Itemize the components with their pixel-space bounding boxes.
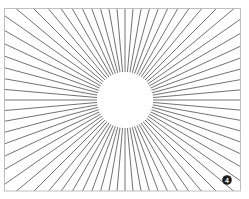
badge-label: 4 [225,177,229,184]
starburst-figure: 4 [0,0,249,199]
starburst-canvas: 4 [0,0,249,199]
figure-number-badge: 4 [222,175,232,185]
center-blank-disc [97,72,153,128]
